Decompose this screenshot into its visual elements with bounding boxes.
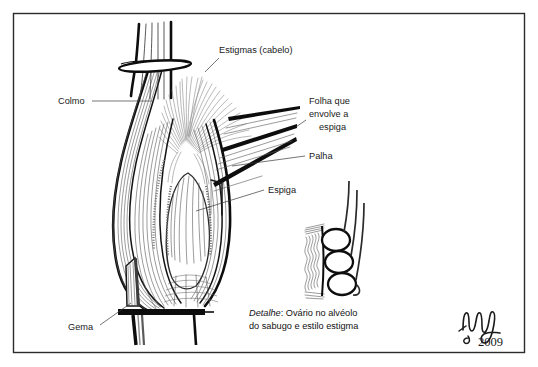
base-bar: [118, 309, 205, 315]
figure-page: Colmo Estigmas (cabelo) Folha que envolv…: [0, 0, 538, 367]
label-folha-line2: envolve a: [309, 109, 349, 119]
caption-line2: do sabugo e estilo estigma: [249, 321, 359, 331]
label-espiga: Espiga: [268, 185, 297, 195]
label-folha-line1: Folha que: [309, 96, 350, 106]
label-colmo: Colmo: [58, 96, 85, 106]
label-gema: Gema: [68, 322, 94, 332]
signature-year: 2009: [478, 335, 503, 349]
caption-line1: Ovário no alvéolo: [283, 308, 357, 318]
svg-text:Detalhe: Ovário no alvéolo: Detalhe: Ovário no alvéolo: [249, 308, 357, 318]
maize-anatomy-diagram: Colmo Estigmas (cabelo) Folha que envolv…: [0, 0, 538, 367]
label-folha-line3: espiga: [319, 122, 347, 132]
ovary-2: [325, 251, 353, 273]
label-estigmas: Estigmas (cabelo): [219, 45, 293, 55]
label-palha: Palha: [309, 151, 333, 161]
ovary-1: [322, 229, 350, 251]
ovary-3: [328, 273, 356, 295]
caption-emphasis: Detalhe: [249, 308, 281, 318]
figure-frame: [14, 14, 525, 353]
